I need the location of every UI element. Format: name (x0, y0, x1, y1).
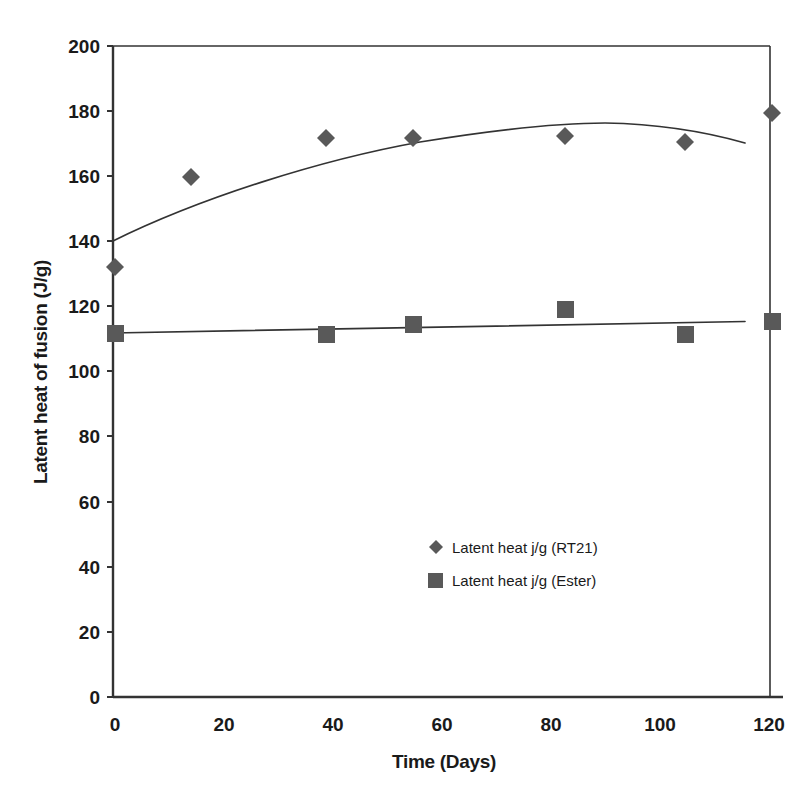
diamond-marker-icon (182, 168, 200, 186)
diamond-marker-icon (676, 133, 694, 151)
square-marker-icon (557, 301, 574, 318)
y-tick-label: 140 (68, 231, 100, 252)
x-tick-label: 20 (213, 714, 234, 735)
y-axis-title: Latent heat of fusion (J/g) (30, 260, 51, 484)
ester-trendline (113, 322, 745, 334)
diamond-marker-icon (556, 127, 574, 145)
y-tick-label: 180 (68, 101, 100, 122)
square-marker-icon (107, 325, 124, 342)
y-tick-label: 160 (68, 166, 100, 187)
chart-figure: 200 180 160 140 120 100 80 60 40 20 0 0 … (0, 0, 809, 790)
x-tick-label: 120 (753, 714, 785, 735)
rt21-trendline (113, 123, 745, 241)
square-marker-icon (428, 573, 443, 588)
x-tick-label: 40 (322, 714, 343, 735)
y-tick-label: 40 (79, 557, 100, 578)
y-tick-label: 120 (68, 296, 100, 317)
y-tick-label: 0 (89, 687, 100, 708)
x-tick-label: 0 (110, 714, 121, 735)
y-axis-tick-labels: 200 180 160 140 120 100 80 60 40 20 0 (68, 36, 100, 708)
y-tick-label: 60 (79, 492, 100, 513)
y-tick-label: 200 (68, 36, 100, 57)
legend-entry-label: Latent heat j/g (RT21) (452, 539, 598, 556)
y-tick-label: 100 (68, 361, 100, 382)
square-marker-icon (405, 316, 422, 333)
x-axis-tick-labels: 0 20 40 60 80 100 120 (110, 714, 785, 735)
chart-legend: Latent heat j/g (RT21) Latent heat j/g (… (428, 539, 598, 589)
x-tick-label: 100 (644, 714, 676, 735)
y-tick-label: 80 (79, 426, 100, 447)
diamond-marker-icon (429, 540, 443, 554)
square-marker-icon (764, 313, 781, 330)
x-tick-label: 80 (540, 714, 561, 735)
diamond-marker-icon (763, 104, 781, 122)
square-marker-icon (318, 326, 335, 343)
square-marker-icon (677, 326, 694, 343)
diamond-marker-icon (317, 129, 335, 147)
x-tick-label: 60 (431, 714, 452, 735)
y-tick-label: 20 (79, 622, 100, 643)
legend-entry-label: Latent heat j/g (Ester) (452, 572, 596, 589)
diamond-marker-icon (106, 258, 124, 276)
latent-heat-of-fusion-scatter-chart: 200 180 160 140 120 100 80 60 40 20 0 0 … (0, 0, 809, 790)
x-axis-title: Time (Days) (392, 751, 496, 772)
